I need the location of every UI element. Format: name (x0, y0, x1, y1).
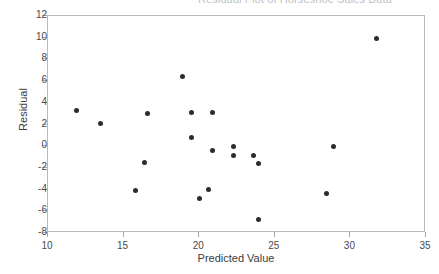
x-tick-label: 35 (405, 241, 439, 251)
data-point (251, 153, 256, 158)
y-tick-label: 10 (7, 32, 47, 42)
chart-title: Residual Plot of Horseshoe Sales Data (198, 0, 439, 3)
data-point (189, 110, 194, 115)
residual-scatter-chart: Residual Plot of Horseshoe Sales Data -8… (0, 0, 439, 274)
plot-area (47, 15, 425, 232)
x-tick-label: 25 (254, 241, 294, 251)
data-point (231, 153, 236, 158)
data-point (374, 36, 379, 41)
x-tick-mark (349, 232, 350, 237)
data-point (324, 191, 329, 196)
data-point (231, 144, 236, 149)
x-tick-mark (425, 232, 426, 237)
data-point (142, 160, 147, 165)
y-tick-label: -2 (7, 162, 47, 172)
data-point (206, 187, 211, 192)
data-point (210, 148, 215, 153)
data-point (74, 108, 79, 113)
x-tick-mark (47, 232, 48, 237)
data-point (256, 217, 261, 222)
x-tick-label: 20 (178, 241, 218, 251)
data-point (210, 110, 215, 115)
data-point (197, 196, 202, 201)
x-tick-label: 30 (329, 241, 369, 251)
x-tick-mark (123, 232, 124, 237)
y-tick-label: 8 (7, 53, 47, 63)
y-tick-label: -6 (7, 205, 47, 215)
x-tick-mark (198, 232, 199, 237)
x-tick-label: 15 (103, 241, 143, 251)
y-tick-label: 12 (7, 10, 47, 20)
data-point (331, 144, 336, 149)
data-point (189, 135, 194, 140)
x-axis-label: Predicted Value (47, 252, 425, 264)
data-point (256, 161, 261, 166)
data-point (98, 121, 103, 126)
data-point (145, 111, 150, 116)
data-point (133, 188, 138, 193)
y-tick-label: -4 (7, 184, 47, 194)
x-tick-label: 10 (27, 241, 67, 251)
data-point (180, 74, 185, 79)
x-tick-mark (274, 232, 275, 237)
y-axis-label: Residual (18, 65, 29, 155)
y-tick-label: -8 (7, 227, 47, 237)
